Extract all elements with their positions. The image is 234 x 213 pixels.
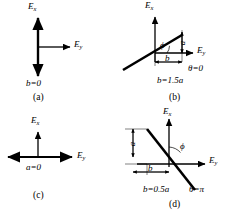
axis-label-ey: Ey bbox=[77, 151, 85, 161]
panel-b: Ex Ey ϕ a b θ=0 b=1.5a (b) bbox=[117, 0, 234, 106]
panel-a-graphic bbox=[0, 0, 117, 106]
figure-canvas: Ex Ey b=0 (a) bbox=[0, 0, 234, 213]
angle-arc-phi bbox=[169, 147, 181, 153]
panel-caption-b: (b) bbox=[169, 92, 180, 102]
panel-d: Ex Ey ϕ a b b=0.5a θ=π (d) bbox=[117, 107, 234, 213]
theta-label-b: θ=0 bbox=[188, 64, 203, 73]
axis-label-ey-sub: y bbox=[203, 49, 206, 56]
axis-label-ex-sub: x bbox=[37, 119, 40, 126]
axis-label-ey-sub: y bbox=[80, 43, 83, 50]
dimension-label-a: a bbox=[177, 41, 187, 45]
panel-c-graphic bbox=[0, 107, 117, 213]
axis-label-ey-sub: y bbox=[215, 159, 218, 166]
axis-label-ey: Ey bbox=[197, 46, 205, 56]
axis-label-ex-sub: x bbox=[34, 5, 37, 12]
condition-label-b: b=1.5a bbox=[157, 76, 183, 85]
condition-label-a: b=0 bbox=[26, 79, 41, 88]
dimension-label-a: a bbox=[127, 142, 137, 146]
panel-caption-c: (c) bbox=[33, 190, 44, 200]
axis-label-ey: Ey bbox=[209, 156, 217, 166]
axis-label-ey: Ey bbox=[74, 40, 82, 50]
axis-label-ex: Ex bbox=[28, 2, 36, 12]
axis-label-ex: Ex bbox=[163, 107, 171, 117]
condition-label-c: a=0 bbox=[26, 163, 41, 172]
angle-arc-phi bbox=[167, 46, 170, 53]
polarization-line bbox=[147, 129, 195, 190]
axis-label-ey-sub: y bbox=[83, 154, 86, 161]
axis-label-ex: Ex bbox=[145, 1, 153, 11]
axis-label-ex: Ex bbox=[31, 116, 39, 126]
dimension-label-b: b bbox=[165, 54, 170, 63]
dimension-label-b: b bbox=[148, 164, 153, 173]
axis-label-ex-sub: x bbox=[169, 110, 172, 117]
panel-c: Ex Ey a=0 (c) bbox=[0, 107, 117, 213]
axis-label-ex-sub: x bbox=[151, 4, 154, 11]
panel-caption-d: (d) bbox=[169, 199, 180, 209]
theta-label-d: θ=π bbox=[189, 185, 204, 194]
angle-label-phi: ϕ bbox=[180, 141, 185, 151]
angle-label-phi: ϕ bbox=[160, 40, 165, 50]
panel-a: Ex Ey b=0 (a) bbox=[0, 0, 117, 106]
condition-label-d: b=0.5a bbox=[143, 185, 169, 194]
panel-b-graphic bbox=[117, 0, 234, 106]
panel-caption-a: (a) bbox=[33, 92, 44, 102]
